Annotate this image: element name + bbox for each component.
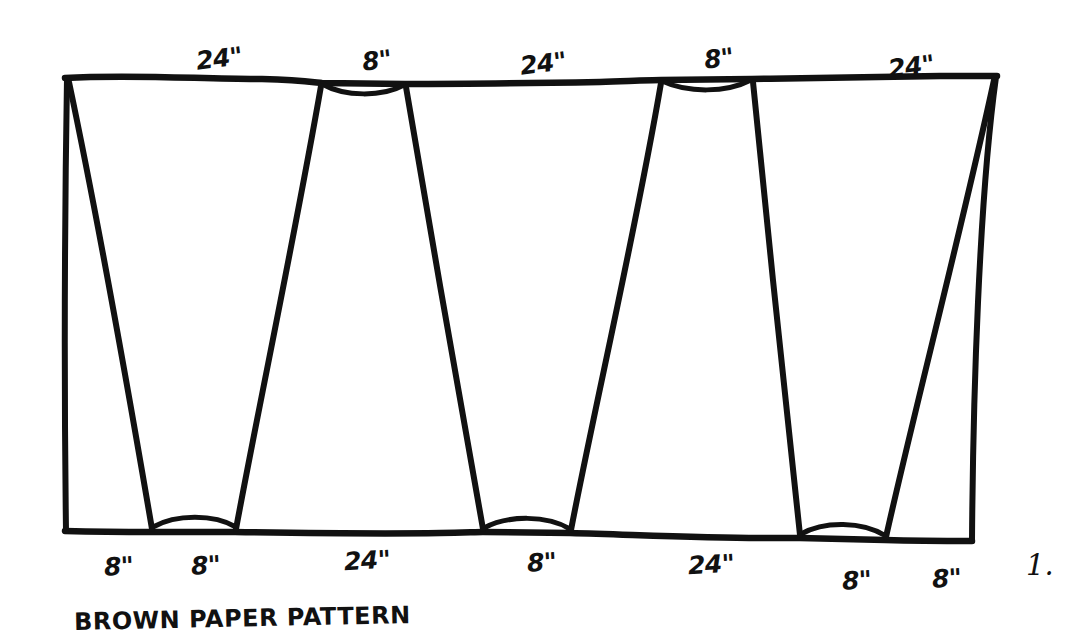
bottom-dimension-label-4: 8" [526, 547, 557, 578]
pattern-drawing [0, 0, 1087, 641]
bottom-edge-line [65, 531, 972, 541]
top-dimension-label-4: 8" [702, 42, 735, 74]
bottom-dimension-label-7: 8" [931, 563, 962, 594]
bottom-dimension-label-3: 24" [343, 545, 391, 576]
panel-diagonal-5 [753, 82, 800, 535]
bottom-notch-arc-2 [484, 518, 570, 529]
top-dimension-label-1: 24" [194, 41, 244, 75]
panel-diagonal-4 [571, 83, 661, 530]
bottom-dimension-label-1: 8" [103, 551, 134, 582]
right-edge-line [972, 77, 996, 541]
bottom-notch-arc-3 [801, 524, 886, 536]
panel-diagonal-1 [69, 82, 152, 529]
left-edge-line [65, 78, 67, 531]
bottom-dimension-label-5: 24" [687, 549, 735, 580]
panel-diagonal-2 [236, 86, 321, 529]
top-dimension-label-3: 24" [518, 46, 568, 80]
bottom-notch-arc-1 [153, 517, 236, 527]
bottom-dimension-label-6: 8" [841, 565, 872, 596]
brown-paper-pattern-sketch: 24" 8" 24" 8" 24" 8" 8" 24" 8" 24" 8" 8"… [0, 0, 1087, 641]
panel-diagonal-3 [406, 87, 483, 529]
top-dimension-label-5: 24" [886, 49, 936, 83]
top-dimension-label-2: 8" [360, 44, 393, 76]
figure-number: 1. [1026, 548, 1054, 582]
bottom-dimension-label-2: 8" [190, 550, 221, 581]
